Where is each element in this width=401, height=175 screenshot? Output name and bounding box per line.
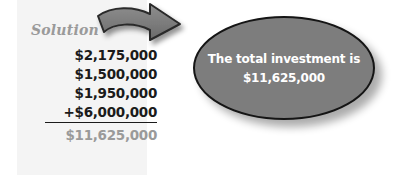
solution-heading: Solution (31, 22, 99, 38)
callout-line-2: $11,625,000 (243, 71, 325, 85)
amount-list: $2,175,000 $1,500,000 $1,950,000 +$6,000… (17, 46, 157, 145)
callout-text: The total investment is $11,625,000 (193, 16, 375, 120)
callout-line-1: The total investment is (208, 52, 360, 66)
amount-row: $1,500,000 (17, 65, 157, 84)
amount-row-total: $11,625,000 (17, 123, 157, 145)
solution-slide: Solution $2,175,000 $1,500,000 $1,950,00… (0, 0, 401, 175)
amount-row: $1,950,000 (17, 84, 157, 103)
answer-callout: The total investment is $11,625,000 (193, 16, 375, 120)
amount-row-addend: +$6,000,000 (45, 103, 157, 123)
curved-arrow-right-icon (96, 2, 188, 50)
